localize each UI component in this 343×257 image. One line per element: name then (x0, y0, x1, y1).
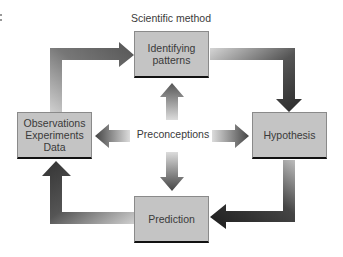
arrow-patterns-to-hypothesis (210, 48, 302, 112)
node-identifying-patterns: Identifying patterns (134, 31, 209, 78)
node-label: Observations Experiments Data (24, 117, 86, 153)
arrow-preconceptions-to-observations (95, 124, 130, 148)
preconceptions-label: Preconceptions (128, 128, 218, 140)
arrow-observations-to-patterns (50, 42, 134, 112)
node-observations-experiments-data: Observations Experiments Data (17, 112, 92, 159)
arrow-preconceptions-to-patterns (160, 83, 184, 120)
arrow-preconceptions-to-prediction (160, 152, 184, 191)
node-prediction: Prediction (134, 196, 209, 243)
node-label: Hypothesis (264, 129, 316, 141)
arrow-hypothesis-to-prediction (210, 160, 295, 229)
node-label: Identifying patterns (148, 42, 196, 66)
node-label: Prediction (148, 213, 195, 225)
node-hypothesis: Hypothesis (252, 112, 327, 159)
arrow-prediction-to-observations (42, 161, 134, 224)
